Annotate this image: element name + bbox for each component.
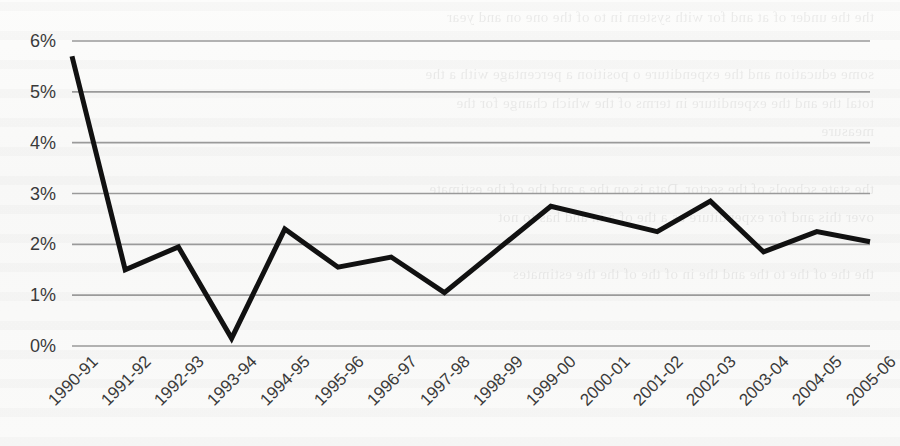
chart-page: the the under of at and for with system … bbox=[0, 0, 900, 446]
series-line-0 bbox=[72, 56, 870, 338]
y-gridlines bbox=[72, 41, 870, 346]
data-series-line bbox=[72, 56, 870, 338]
line-chart: 0%1%2%3%4%5%6% 1990-911991-921992-931993… bbox=[0, 0, 900, 446]
